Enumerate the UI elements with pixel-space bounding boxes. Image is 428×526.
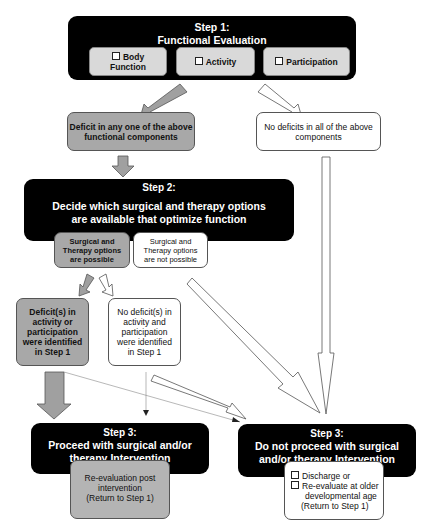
re-evaluation-line: intervention bbox=[98, 483, 142, 493]
deficit-line: Deficit in any one of the above bbox=[70, 122, 193, 132]
arrow-deficits-to-step3-proceed bbox=[37, 372, 71, 419]
no-deficits-line: participation bbox=[122, 327, 168, 337]
arrow-not-possible-to-step3-not bbox=[187, 278, 320, 413]
checkbox-icon bbox=[195, 57, 203, 65]
reevaluate-item-line3: (Return to Step 1) bbox=[291, 501, 379, 511]
no-deficits-line: No deficit(s) in bbox=[117, 307, 171, 317]
step2-title-line3: are available that optimize function bbox=[71, 213, 246, 226]
component-label: Body bbox=[123, 52, 144, 62]
option-line: Therapy options bbox=[63, 246, 121, 255]
re-evaluation-line: Re-evaluation post bbox=[85, 473, 156, 483]
component-activity: Activity bbox=[176, 47, 255, 76]
deficits-line: activity or bbox=[32, 317, 72, 327]
step2-title-line2: Decide which surgical and therapy option… bbox=[52, 200, 266, 213]
option-line: Therapy options bbox=[144, 246, 198, 255]
discharge-item: Discharge or bbox=[302, 471, 350, 481]
no-deficits-line: were identified bbox=[117, 337, 172, 347]
option-possible-box: Surgical and Therapy options are possibl… bbox=[54, 232, 130, 268]
step1-title-line1: Step 1: bbox=[194, 21, 229, 34]
step2-title-line1: Step 2: bbox=[142, 182, 175, 194]
step3-not-title-line2: Do not proceed with surgical bbox=[255, 440, 399, 453]
option-line: Surgical and bbox=[150, 237, 192, 246]
deficits-line: were identified bbox=[23, 337, 83, 347]
arrow-no-deficit-to-step3-not bbox=[318, 157, 334, 414]
component-label: Activity bbox=[206, 57, 237, 67]
deficits-identified-box: Deficit(s) in activity or participation … bbox=[16, 298, 89, 366]
option-line: Surgical and bbox=[69, 237, 114, 246]
step3-not-title-line1: Step 3: bbox=[310, 428, 343, 440]
no-deficit-line: No deficits in all of the above bbox=[264, 122, 373, 132]
checkbox-icon bbox=[275, 57, 283, 65]
arrow-possible-to-no-deficits bbox=[99, 274, 113, 296]
step3-proceed-title-line1: Step 3: bbox=[103, 427, 136, 439]
re-evaluation-box: Re-evaluation post intervention (Return … bbox=[70, 460, 170, 519]
option-line: are possible bbox=[70, 255, 114, 264]
re-evaluation-line: (Return to Step 1) bbox=[86, 493, 154, 503]
no-deficits-box: No deficits in all of the above componen… bbox=[256, 112, 381, 151]
discharge-box: Discharge or Re-evaluate at older develo… bbox=[284, 461, 384, 520]
arrow-deficit-to-step2 bbox=[112, 156, 134, 177]
option-not-possible-box: Surgical and Therapy options are not pos… bbox=[133, 232, 208, 268]
reevaluate-item-line2: developmental age bbox=[291, 491, 379, 501]
component-label: Participation bbox=[286, 57, 337, 67]
option-line: are not possible bbox=[144, 255, 197, 264]
arrow-possible-to-deficits bbox=[79, 274, 94, 296]
arrow-no-deficits-to-step3-not bbox=[151, 375, 246, 419]
checkbox-icon bbox=[291, 471, 299, 479]
deficits-line: in Step 1 bbox=[35, 347, 70, 357]
deficits-line: Deficit(s) in bbox=[29, 307, 75, 317]
no-deficits-identified-box: No deficit(s) in activity and participat… bbox=[108, 298, 181, 366]
component-participation: Participation bbox=[263, 47, 350, 76]
deficit-any-component-box: Deficit in any one of the above function… bbox=[67, 112, 195, 151]
no-deficits-line: in Step 1 bbox=[128, 347, 162, 357]
no-deficit-line: components bbox=[295, 132, 341, 142]
no-deficits-line: activity and bbox=[123, 317, 166, 327]
component-label: Function bbox=[110, 62, 146, 72]
component-body-function: Body Function bbox=[89, 47, 167, 76]
reevaluate-item: Re-evaluate at older bbox=[302, 481, 379, 491]
step3-proceed-title-line2: Proceed with surgical and/or bbox=[48, 439, 192, 452]
deficit-line: functional components bbox=[84, 132, 178, 142]
deficits-line: participation bbox=[27, 327, 78, 337]
checkbox-icon bbox=[112, 52, 120, 60]
step1-title-line2: Functional Evaluation bbox=[157, 34, 266, 47]
arrow-no-deficits-to-step3-proceed bbox=[143, 372, 149, 416]
checkbox-icon bbox=[291, 481, 299, 489]
